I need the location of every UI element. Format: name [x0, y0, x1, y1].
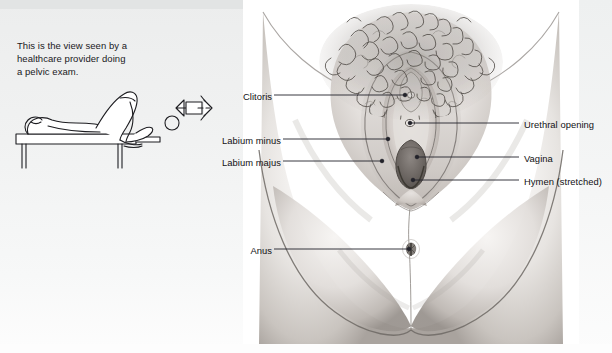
label-anus: Anus: [246, 245, 272, 256]
label-hymen-stretched: Hymen (stretched): [524, 176, 602, 187]
caption-line-2: healthcare provider doing: [17, 52, 182, 65]
label-clitoris: Clitoris: [236, 91, 272, 102]
caption-text: This is the view seen by a healthcare pr…: [17, 39, 182, 79]
pelvic-exam-position-inset: [8, 80, 213, 170]
caption-line-1: This is the view seen by a: [17, 39, 182, 52]
patient-heel-2: [124, 146, 142, 148]
inset-line-drawing: [8, 80, 213, 170]
caption-line-3: a pelvic exam.: [17, 65, 182, 78]
label-labium-majus: Labium majus: [203, 157, 281, 168]
label-vagina: Vagina: [524, 153, 553, 164]
anatomy-illustration-panel: [243, 0, 579, 345]
illustration-body: [243, 0, 579, 345]
figure-root: This is the view seen by a healthcare pr…: [0, 0, 612, 353]
bottom-strip: [0, 344, 612, 353]
urethral-meatus: [408, 122, 411, 125]
top-band: [0, 0, 243, 9]
anatomy-illustration: [243, 0, 579, 345]
label-urethral-opening: Urethral opening: [524, 119, 594, 130]
label-labium-minus: Labium minus: [203, 135, 281, 146]
